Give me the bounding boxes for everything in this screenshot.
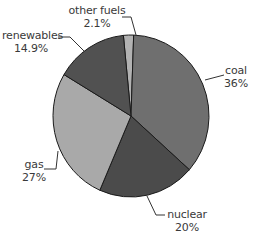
label-other-fuels-pct: 2.1% — [68, 17, 126, 30]
label-renewables-name: renewables — [2, 29, 60, 42]
label-coal: coal 36% — [220, 64, 252, 90]
leader-line-nuclear — [147, 196, 165, 215]
label-nuclear-pct: 20% — [164, 221, 210, 234]
label-other-fuels-name: other fuels — [68, 4, 126, 17]
label-renewables: renewables 14.9% — [2, 29, 60, 55]
label-nuclear: nuclear 20% — [164, 208, 210, 234]
label-other-fuels: other fuels 2.1% — [68, 4, 126, 30]
label-renewables-pct: 14.9% — [2, 42, 60, 55]
label-gas: gas 27% — [18, 158, 50, 184]
label-gas-pct: 27% — [18, 171, 50, 184]
label-coal-name: coal — [220, 64, 252, 77]
pie-slices — [53, 35, 209, 197]
label-coal-pct: 36% — [220, 77, 252, 90]
label-nuclear-name: nuclear — [164, 208, 210, 221]
label-gas-name: gas — [18, 158, 50, 171]
